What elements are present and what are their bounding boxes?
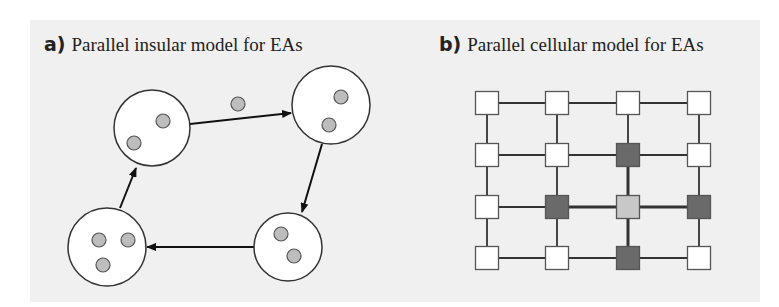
island-population xyxy=(254,213,322,281)
grid-cell xyxy=(476,196,499,219)
insular-model xyxy=(68,66,370,286)
migration-arrow-icon xyxy=(302,144,322,212)
grid-cell xyxy=(688,144,711,167)
neighbor-cell xyxy=(617,247,640,270)
individual-dot xyxy=(96,258,110,272)
diagram-canvas xyxy=(0,0,779,307)
grid-cell xyxy=(688,247,711,270)
grid-cell xyxy=(546,247,569,270)
migrant-individual-dot xyxy=(231,97,245,111)
individual-dot xyxy=(121,233,135,247)
individual-dot xyxy=(92,233,106,247)
island-population xyxy=(114,90,190,166)
grid-cell xyxy=(476,144,499,167)
neighbor-cell xyxy=(617,144,640,167)
individual-dot xyxy=(287,249,301,263)
neighbor-cell xyxy=(688,196,711,219)
grid-cell xyxy=(617,92,640,115)
grid-cell xyxy=(476,247,499,270)
island-population xyxy=(68,208,146,286)
grid-cell xyxy=(476,92,499,115)
grid-cell xyxy=(546,144,569,167)
individual-dot xyxy=(334,90,348,104)
grid-cell xyxy=(546,92,569,115)
center-cell xyxy=(617,196,640,219)
neighbor-cell xyxy=(546,196,569,219)
migration-arrow-icon xyxy=(120,168,136,208)
individual-dot xyxy=(274,227,288,241)
individual-dot xyxy=(156,114,170,128)
individual-dot xyxy=(127,136,141,150)
grid-cell xyxy=(688,92,711,115)
migration-arrow-icon xyxy=(190,113,291,124)
individual-dot xyxy=(322,118,336,132)
cellular-model xyxy=(476,92,711,270)
